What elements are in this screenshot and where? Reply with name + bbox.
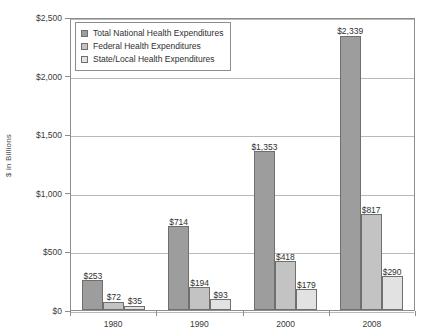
bar-chart: $ in Billions $0$500$1,000$1,500$2,000$2…	[0, 0, 427, 336]
bar-value-label: $2,339	[337, 27, 363, 36]
legend-item-label: Total National Health Expenditures	[93, 29, 223, 38]
y-axis-tick: $1,500	[36, 130, 70, 140]
bar-value-label: $179	[297, 281, 316, 290]
x-axis-tick-mark	[415, 311, 416, 316]
y-axis-tick: $1,000	[36, 189, 70, 199]
bar-group: $2,339$817$290	[328, 19, 414, 310]
x-axis-category-label: 1990	[156, 319, 242, 329]
y-axis-ticks: $0$500$1,000$1,500$2,000$2,500	[0, 18, 70, 311]
legend-swatch-icon	[81, 43, 88, 50]
y-axis-tick-label: $500	[43, 247, 65, 257]
bar[interactable]: $817	[361, 214, 382, 310]
bar-value-label: $418	[276, 253, 295, 262]
y-axis-tick: $2,000	[36, 72, 70, 82]
x-axis-tick-mark	[70, 311, 71, 316]
bar-value-label: $253	[83, 272, 102, 281]
x-axis-category-label: 1980	[70, 319, 156, 329]
legend-swatch-icon	[81, 56, 88, 63]
bar-value-label: $72	[107, 293, 121, 302]
bar[interactable]: $179	[296, 289, 317, 310]
x-axis-categories: 1980199020002008	[70, 319, 415, 329]
bar-slot: $179	[296, 19, 317, 310]
x-axis-tick-mark	[243, 311, 244, 316]
bar-value-label: $1,353	[251, 143, 277, 152]
bar[interactable]: $290	[382, 276, 403, 310]
legend-item[interactable]: State/Local Health Expenditures	[81, 53, 223, 66]
bar-group-bars: $2,339$817$290	[340, 19, 403, 310]
bar[interactable]: $253	[82, 280, 103, 310]
bar-value-label: $290	[383, 268, 402, 277]
bar-value-label: $93	[214, 291, 228, 300]
bar-group-bars: $1,353$418$179	[254, 19, 317, 310]
y-axis-tick-label: $1,500	[36, 130, 65, 140]
bar-slot: $817	[361, 19, 382, 310]
x-axis-category-label: 2000	[243, 319, 329, 329]
bar-value-label: $714	[169, 218, 188, 227]
bar-slot: $290	[382, 19, 403, 310]
x-axis-tick-mark	[329, 311, 330, 316]
bar[interactable]: $194	[189, 287, 210, 310]
legend-item-label: State/Local Health Expenditures	[93, 55, 214, 64]
bar[interactable]: $35	[124, 306, 145, 310]
x-axis-tick-mark	[156, 311, 157, 316]
legend-swatch-icon	[81, 30, 88, 37]
bar[interactable]: $714	[168, 226, 189, 310]
bar-group: $1,353$418$179	[243, 19, 329, 310]
bar[interactable]: $418	[275, 261, 296, 310]
legend-item-label: Federal Health Expenditures	[93, 42, 201, 51]
y-axis-tick: $0	[53, 306, 70, 316]
bar[interactable]: $1,353	[254, 151, 275, 310]
bar-slot: $2,339	[340, 19, 361, 310]
y-axis-tick-label: $1,000	[36, 189, 65, 199]
y-axis-tick-label: $2,000	[36, 72, 65, 82]
legend-item[interactable]: Federal Health Expenditures	[81, 40, 223, 53]
y-axis-tick: $2,500	[36, 13, 70, 23]
bar[interactable]: $2,339	[340, 36, 361, 310]
legend: Total National Health ExpendituresFedera…	[75, 22, 231, 71]
y-axis-tick-label: $2,500	[36, 13, 65, 23]
bar-value-label: $817	[362, 206, 381, 215]
x-axis-category-label: 2008	[329, 319, 415, 329]
x-axis: 1980199020002008	[70, 311, 415, 336]
bar[interactable]: $93	[210, 299, 231, 310]
y-axis-tick-label: $0	[53, 306, 65, 316]
y-axis-tick: $500	[43, 247, 70, 257]
bar-value-label: $194	[190, 279, 209, 288]
bar-slot: $1,353	[254, 19, 275, 310]
bar-value-label: $35	[128, 297, 142, 306]
bar-slot: $418	[275, 19, 296, 310]
bar[interactable]: $72	[103, 302, 124, 310]
legend-item[interactable]: Total National Health Expenditures	[81, 27, 223, 40]
